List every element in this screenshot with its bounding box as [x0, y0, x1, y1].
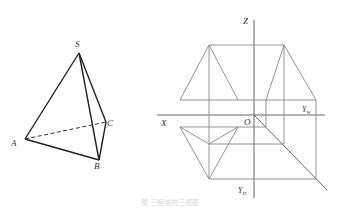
figure-caption: 图 三棱锥的三视图	[0, 197, 340, 207]
label-C: C	[107, 118, 114, 128]
label-X: X	[160, 118, 167, 128]
pyramid-3d	[25, 53, 106, 160]
label-B: B	[94, 161, 100, 171]
label-O: O	[244, 117, 251, 127]
label-A: A	[10, 138, 17, 148]
edge-AB	[25, 139, 99, 160]
projection-lines	[180, 45, 316, 179]
side-view-outline	[266, 45, 316, 100]
label-Z: Z	[243, 16, 249, 26]
edge-SC	[79, 53, 106, 122]
label-Yh: YH	[238, 186, 246, 196]
edge-BC	[99, 122, 106, 160]
label-Yw: YW	[302, 105, 311, 115]
figure-canvas: S A B C Z X O YW YH	[0, 0, 340, 212]
edge-SB	[79, 53, 99, 160]
label-S: S	[75, 39, 80, 49]
edge-SA	[25, 53, 79, 139]
